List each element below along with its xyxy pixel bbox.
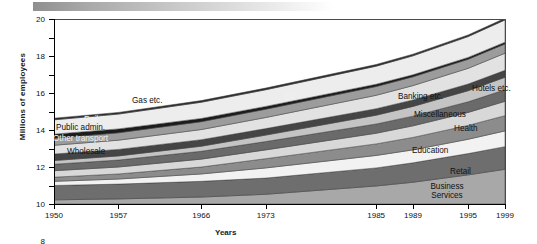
y-tick-label: 16 <box>36 89 45 98</box>
plot-frame-top <box>54 19 506 20</box>
annotation-gas-etc: Gas etc. <box>132 97 163 106</box>
x-tick <box>54 204 55 209</box>
y-tick-label: 8 <box>41 237 45 244</box>
annotation-other-transport: Other transport <box>53 135 108 144</box>
y-tick: 4 <box>49 167 55 168</box>
annotation-hotels-etc: Hotels etc. <box>472 85 511 94</box>
x-tick <box>505 204 506 209</box>
header-strip <box>33 2 333 11</box>
y-tick: 2 <box>49 186 55 187</box>
y-tick-label: 14 <box>36 126 45 135</box>
x-tick-label: 1999 <box>496 211 514 220</box>
annotation-health: Health <box>454 125 478 134</box>
y-tick: 14 <box>49 75 55 76</box>
annotation-banking-etc: Banking etc. <box>398 93 443 102</box>
x-axis-title: Years <box>215 228 236 237</box>
plot-area: 02468101214161820 1950195719661973198519… <box>54 19 506 205</box>
y-tick: 10 <box>49 112 55 113</box>
y-tick-label: 18 <box>36 52 45 61</box>
y-tick: 8 <box>49 130 55 131</box>
y-tick: 6 <box>49 149 55 150</box>
y-tick-label: 12 <box>36 163 45 172</box>
x-tick <box>118 204 119 209</box>
x-tick-label: 1989 <box>404 211 422 220</box>
y-axis-title: Millions of employees <box>18 37 27 157</box>
chart-root: Millions of employees Years 024681012141… <box>0 0 537 244</box>
x-tick-label: 1973 <box>257 211 275 220</box>
annotation-retail: Retail <box>450 168 471 177</box>
x-tick-label: 1995 <box>459 211 477 220</box>
y-tick-label: 10 <box>36 200 45 209</box>
x-tick <box>468 204 469 209</box>
x-tick-label: 1957 <box>110 211 128 220</box>
x-tick-label: 1950 <box>45 211 63 220</box>
annotation-education: Education <box>412 147 448 156</box>
x-tick <box>413 204 414 209</box>
x-axis-line <box>54 204 506 205</box>
y-tick: 16 <box>49 56 55 57</box>
y-tick: 12 <box>49 93 55 94</box>
y-tick: 18 <box>49 38 55 39</box>
x-tick <box>266 204 267 209</box>
y-tick-label: 20 <box>36 15 45 24</box>
y-tick: 20 <box>49 19 55 20</box>
plot-frame-right <box>505 19 506 205</box>
annotation-wholesale: Wholesale <box>67 148 105 157</box>
x-tick <box>376 204 377 209</box>
annotation-miscellaneous: Miscellaneous <box>414 111 466 120</box>
x-tick-label: 1985 <box>367 211 385 220</box>
x-tick <box>201 204 202 209</box>
annotation-public-admin: Public admin. <box>56 124 105 133</box>
x-tick-label: 1966 <box>192 211 210 220</box>
annotation-oil: Oil <box>284 94 294 103</box>
annotation-services: Services <box>431 192 462 201</box>
